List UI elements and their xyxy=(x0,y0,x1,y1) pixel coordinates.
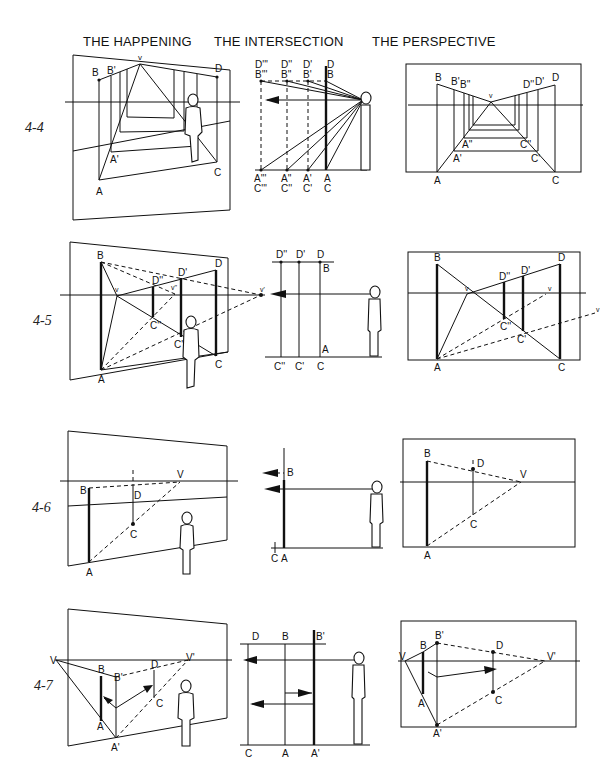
diagram-4-5-intersection: D''D'DB AC''C'C xyxy=(262,248,392,383)
observer-figure xyxy=(180,512,194,574)
svg-text:C'': C'' xyxy=(281,183,292,194)
svg-text:A': A' xyxy=(110,154,119,165)
svg-text:B: B xyxy=(287,467,294,478)
svg-text:C': C' xyxy=(517,334,526,345)
svg-text:B': B' xyxy=(435,630,444,641)
svg-text:v: v xyxy=(465,285,469,292)
svg-text:D': D' xyxy=(178,267,187,278)
svg-text:D'': D'' xyxy=(499,271,510,282)
diagram-4-4-perspective: BB'B'' v D''D'D A''C''A'C' AC xyxy=(400,62,590,192)
svg-text:D: D xyxy=(558,252,565,263)
svg-text:V': V' xyxy=(186,652,195,663)
svg-text:C'': C'' xyxy=(274,361,285,372)
diagram-4-6-happening: BDV CA xyxy=(60,428,250,578)
svg-text:B: B xyxy=(424,448,431,459)
svg-text:D: D xyxy=(552,72,559,83)
svg-text:C: C xyxy=(271,553,278,564)
svg-text:C: C xyxy=(558,362,565,373)
diagram-4-4-intersection: D'''B''' D''B'' D'B' DB A'''C''' A''C'' … xyxy=(245,58,370,208)
svg-text:D: D xyxy=(215,63,222,74)
svg-text:D': D' xyxy=(521,265,530,276)
svg-text:C: C xyxy=(156,698,163,709)
svg-text:A': A' xyxy=(433,728,442,739)
svg-text:V: V xyxy=(399,651,406,662)
svg-text:v: v xyxy=(115,286,119,293)
svg-text:C: C xyxy=(495,695,502,706)
svg-text:B''': B''' xyxy=(255,69,267,80)
diagram-4-6-perspective: BDV CA xyxy=(400,436,580,556)
svg-text:B: B xyxy=(434,252,441,263)
svg-text:A: A xyxy=(86,567,93,578)
svg-text:D: D xyxy=(252,631,259,642)
svg-text:B': B' xyxy=(451,76,460,87)
svg-text:B: B xyxy=(323,263,330,274)
diagram-4-7-perspective: VBB'D V'ACA' xyxy=(400,620,595,750)
svg-text:C'': C'' xyxy=(500,321,511,332)
svg-text:V': V' xyxy=(547,651,556,662)
svg-text:A: A xyxy=(96,186,103,197)
svg-text:V: V xyxy=(520,469,527,480)
observer-figure xyxy=(368,286,381,356)
svg-text:D: D xyxy=(151,659,158,670)
svg-text:B: B xyxy=(327,69,334,80)
svg-text:B': B' xyxy=(316,631,325,642)
diagram-4-6-intersection: BCA xyxy=(268,438,398,578)
svg-text:A': A' xyxy=(111,742,120,753)
svg-text:A: A xyxy=(98,374,105,385)
svg-text:D': D' xyxy=(535,76,544,87)
observer-figure xyxy=(185,94,202,162)
svg-text:C'': C'' xyxy=(150,320,161,331)
svg-text:D: D xyxy=(134,490,141,501)
svg-text:A: A xyxy=(97,721,104,732)
diagram-4-5-happening: BD''D'D vv''v' C''C'CA xyxy=(60,240,295,410)
svg-text:D: D xyxy=(496,640,503,651)
svg-text:B': B' xyxy=(114,672,123,683)
svg-text:C: C xyxy=(470,519,477,530)
svg-text:B'': B'' xyxy=(460,79,471,90)
svg-text:D': D' xyxy=(296,249,305,260)
figure-label-4-5: 4-5 xyxy=(33,313,52,329)
svg-text:v: v xyxy=(596,306,600,313)
svg-text:A: A xyxy=(282,748,289,759)
svg-text:C''': C''' xyxy=(254,183,267,194)
svg-text:B: B xyxy=(282,631,289,642)
svg-text:C'': C'' xyxy=(520,139,531,150)
figure-label-4-4: 4-4 xyxy=(25,120,44,136)
svg-text:C: C xyxy=(245,748,252,759)
svg-text:D'': D'' xyxy=(523,79,534,90)
svg-text:B': B' xyxy=(107,65,116,76)
svg-text:B: B xyxy=(92,67,99,78)
diagram-4-7-happening: VBB'D V'CAA' xyxy=(45,606,245,771)
svg-text:B'': B'' xyxy=(281,69,292,80)
observer-figure xyxy=(361,92,371,170)
svg-text:C': C' xyxy=(531,153,540,164)
observer-figure xyxy=(352,652,365,744)
svg-text:D: D xyxy=(317,249,324,260)
svg-text:V: V xyxy=(177,469,184,480)
column-heading-perspective: THE PERSPECTIVE xyxy=(372,34,496,49)
svg-text:A'': A'' xyxy=(462,139,473,150)
svg-text:A: A xyxy=(322,344,329,355)
svg-text:A: A xyxy=(418,698,425,709)
svg-text:V: V xyxy=(50,655,57,666)
svg-text:C: C xyxy=(317,361,324,372)
svg-text:B: B xyxy=(80,485,87,496)
diagram-4-5-perspective: BD''D'D vvv C''C'AC xyxy=(400,250,614,380)
svg-text:A: A xyxy=(434,362,441,373)
svg-text:D'': D'' xyxy=(276,249,287,260)
svg-text:v: v xyxy=(138,53,142,62)
svg-text:v: v xyxy=(489,92,493,99)
svg-text:v: v xyxy=(548,285,552,292)
svg-text:v'': v'' xyxy=(171,284,177,291)
observer-figure xyxy=(370,481,383,547)
svg-text:C': C' xyxy=(295,361,304,372)
svg-text:C: C xyxy=(552,175,559,186)
svg-text:B: B xyxy=(420,640,427,651)
observer-figure xyxy=(183,316,199,388)
svg-text:B: B xyxy=(435,72,442,83)
svg-text:C: C xyxy=(214,167,221,178)
svg-text:D: D xyxy=(215,258,222,269)
svg-text:D'': D'' xyxy=(152,275,163,286)
svg-text:C': C' xyxy=(303,183,312,194)
svg-text:A: A xyxy=(424,550,431,561)
